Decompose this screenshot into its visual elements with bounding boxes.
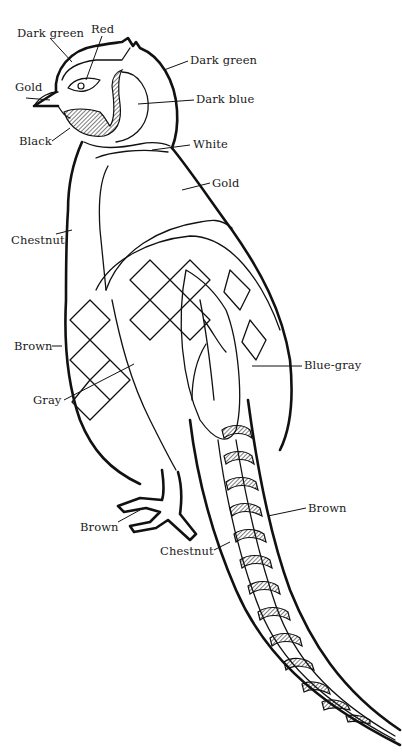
label-gold-back: Gold bbox=[212, 178, 240, 190]
label-brown-wing: Brown bbox=[14, 341, 53, 353]
label-gray: Gray bbox=[33, 395, 61, 407]
head bbox=[34, 38, 177, 148]
label-brown-feet: Brown bbox=[80, 522, 119, 534]
label-white: White bbox=[193, 139, 228, 151]
label-brown-tail: Brown bbox=[308, 503, 347, 515]
label-dark-green-crown: Dark green bbox=[17, 28, 84, 40]
tail bbox=[190, 400, 400, 745]
label-blue-gray: Blue-gray bbox=[304, 360, 361, 372]
pheasant-diagram: Dark green Red Dark green Gold Dark blue… bbox=[0, 0, 402, 755]
label-chestnut-tail: Chestnut bbox=[160, 546, 214, 558]
feet bbox=[118, 470, 196, 540]
label-chestnut-breast: Chestnut bbox=[11, 235, 65, 247]
label-dark-blue: Dark blue bbox=[196, 94, 254, 106]
label-dark-green-neck: Dark green bbox=[190, 55, 257, 67]
label-red-eye: Red bbox=[91, 24, 114, 36]
body bbox=[65, 142, 291, 484]
pheasant-illustration bbox=[0, 0, 402, 755]
label-black: Black bbox=[19, 136, 52, 148]
label-gold-beak: Gold bbox=[15, 82, 43, 94]
